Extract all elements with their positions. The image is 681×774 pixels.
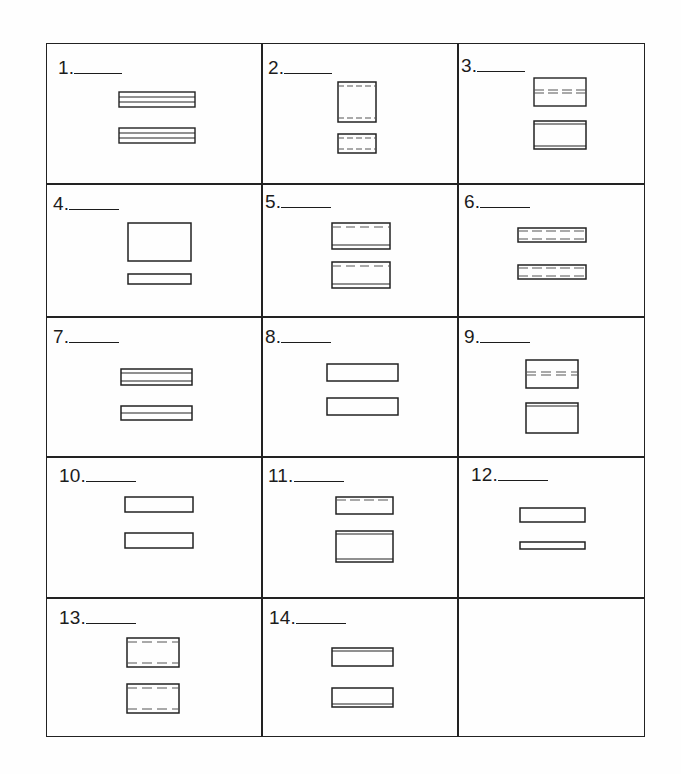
problem-number: 14.: [269, 607, 296, 628]
answer-blank[interactable]: [281, 340, 331, 343]
problem-number: 5.: [265, 191, 281, 212]
problem-label-8: 8.: [265, 326, 331, 348]
problem-cell-6: 6.: [457, 183, 645, 316]
answer-blank[interactable]: [296, 621, 346, 624]
answer-blank[interactable]: [69, 207, 119, 210]
figure-icon: [120, 368, 196, 424]
problem-label-5: 5.: [265, 191, 331, 213]
problem-number: 10.: [59, 465, 86, 486]
problem-label-9: 9.: [464, 326, 530, 348]
problem-number: 6.: [464, 191, 480, 212]
figure-icon: [337, 81, 379, 156]
problem-label-1: 1.: [58, 57, 122, 79]
problem-cell-7: 7.: [46, 316, 261, 456]
answer-blank[interactable]: [281, 205, 331, 208]
problem-number: 4.: [53, 193, 69, 214]
problem-cell-2: 2.: [261, 43, 457, 183]
figure-icon: [326, 363, 402, 419]
problem-cell-8: 8.: [261, 316, 457, 456]
problem-number: 3.: [461, 55, 477, 76]
problem-label-6: 6.: [464, 191, 530, 213]
figure-icon: [525, 359, 581, 437]
figure-icon: [127, 222, 195, 290]
problem-cell-12: 12.: [457, 456, 645, 597]
figure-icon: [517, 227, 589, 283]
problem-number: 13.: [59, 607, 86, 628]
problem-cell-9: 9.: [457, 316, 645, 456]
problem-number: 7.: [53, 326, 69, 347]
problem-number: 1.: [58, 57, 74, 78]
problem-cell-5: 5.: [261, 183, 457, 316]
problem-cell-4: 4.: [46, 183, 261, 316]
answer-blank[interactable]: [294, 479, 344, 482]
problem-cell-11: 11.: [261, 456, 457, 597]
answer-blank[interactable]: [86, 621, 136, 624]
figure-icon: [118, 91, 198, 151]
answer-blank[interactable]: [284, 71, 332, 74]
problem-number: 9.: [464, 326, 480, 347]
answer-blank[interactable]: [74, 71, 122, 74]
figure-icon: [331, 647, 397, 713]
problem-label-7: 7.: [53, 326, 119, 348]
problem-cell-1: 1.: [46, 43, 261, 183]
figure-icon: [331, 222, 393, 292]
problem-number: 11.: [268, 465, 294, 486]
problem-cell-14: 14.: [261, 597, 457, 737]
answer-blank[interactable]: [480, 340, 530, 343]
problem-label-10: 10.: [59, 465, 136, 487]
answer-blank[interactable]: [69, 340, 119, 343]
problem-label-11: 11.: [268, 465, 344, 487]
problem-number: 12.: [471, 464, 498, 485]
problem-label-13: 13.: [59, 607, 136, 629]
answer-blank[interactable]: [498, 478, 548, 481]
problem-label-14: 14.: [269, 607, 346, 629]
problem-number: 8.: [265, 326, 281, 347]
figure-icon: [335, 496, 397, 566]
answer-blank[interactable]: [477, 69, 525, 72]
problem-label-4: 4.: [53, 193, 119, 215]
answer-blank[interactable]: [86, 479, 136, 482]
figure-icon: [124, 496, 196, 552]
problem-label-2: 2.: [268, 57, 332, 79]
figure-icon: [126, 637, 182, 717]
empty-cell: [457, 597, 645, 737]
problem-cell-13: 13.: [46, 597, 261, 737]
figure-icon: [519, 507, 589, 553]
problem-number: 2.: [268, 57, 284, 78]
problem-label-3: 3.: [461, 55, 525, 77]
figure-icon: [533, 77, 589, 153]
answer-blank[interactable]: [480, 205, 530, 208]
problem-cell-10: 10.: [46, 456, 261, 597]
problem-cell-3: 3.: [457, 43, 645, 183]
problem-label-12: 12.: [471, 464, 548, 486]
worksheet-page: 1. 2. 3.: [0, 0, 681, 774]
